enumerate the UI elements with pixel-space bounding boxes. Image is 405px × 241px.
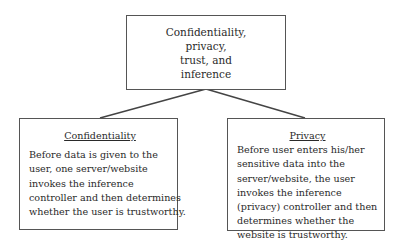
confidentiality-line: Before data is given to the [29,148,171,162]
privacy-line: server/website, the user [237,172,378,186]
connector-left [100,89,206,118]
root-line: Confidentiality, [166,25,246,39]
confidentiality-line: user, one server/website [29,162,171,176]
privacy-node: Privacy Before user enters his/her sensi… [227,118,385,231]
connector-right [206,89,305,118]
root-line: inference [166,67,246,81]
privacy-line: (privacy) controller and then [237,200,378,214]
privacy-line: sensitive data into the [237,157,378,171]
privacy-line: website is trustworthy. [237,228,378,241]
confidentiality-title: Confidentiality [29,129,171,143]
confidentiality-line: controller and then determines [29,191,171,205]
confidentiality-node: Confidentiality Before data is given to … [19,118,178,230]
confidentiality-line: invokes the inference [29,177,171,191]
privacy-line: determines whether the [237,214,378,228]
privacy-title: Privacy [237,129,378,143]
privacy-line: invokes the inference [237,186,378,200]
privacy-line: Before user enters his/her [237,143,378,157]
root-node-text: Confidentiality, privacy, trust, and inf… [166,25,246,81]
root-node: Confidentiality, privacy, trust, and inf… [126,15,286,90]
root-line: trust, and [166,53,246,67]
confidentiality-line: whether the user is trustworthy. [29,205,171,219]
root-line: privacy, [166,39,246,53]
